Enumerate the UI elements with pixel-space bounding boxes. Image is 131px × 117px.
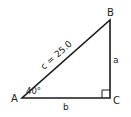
angle-a-label: 40° bbox=[26, 86, 41, 96]
right-angle-marker bbox=[102, 90, 110, 98]
triangle-diagram: A B C a b c = 25.0 40° bbox=[0, 0, 131, 117]
vertex-b-label: B bbox=[107, 7, 114, 18]
vertex-c-label: C bbox=[113, 95, 120, 106]
side-a-label: a bbox=[113, 55, 119, 65]
side-b-label: b bbox=[63, 102, 69, 112]
vertex-a-label: A bbox=[11, 93, 18, 104]
